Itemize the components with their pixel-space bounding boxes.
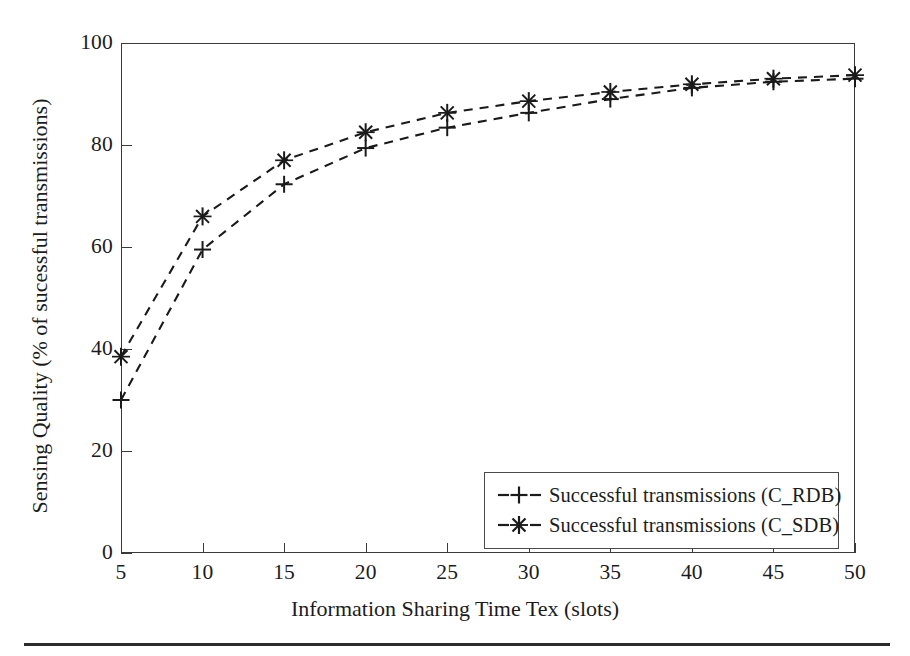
x-axis-tick-labels: 5101520253035404550 xyxy=(0,562,910,594)
x-tick-label: 30 xyxy=(518,562,540,584)
y-tick-label: 100 xyxy=(67,32,113,54)
chart-legend: Successful transmissions (C_RDB) Success… xyxy=(484,472,839,549)
y-tick-label: 0 xyxy=(67,542,113,564)
x-tick-mark xyxy=(366,543,367,553)
x-tick-label: 10 xyxy=(192,562,214,584)
page-separator-rule xyxy=(24,643,890,646)
legend-marker-asterisk-icon xyxy=(497,514,543,536)
x-tick-mark xyxy=(447,543,448,553)
x-tick-label: 50 xyxy=(844,562,866,584)
y-tick-mark xyxy=(121,451,132,452)
x-tick-mark xyxy=(855,543,856,553)
data-marker-asterisk xyxy=(510,516,528,534)
y-tick-mark xyxy=(121,247,132,248)
data-marker-plus xyxy=(511,487,528,504)
figure-chart: 020406080100 5101520253035404550 Informa… xyxy=(0,0,910,656)
y-tick-label: 80 xyxy=(67,134,113,156)
x-tick-label: 45 xyxy=(762,562,784,584)
x-tick-mark xyxy=(203,543,204,553)
legend-label-c-sdb: Successful transmissions (C_SDB) xyxy=(549,514,839,537)
x-tick-mark xyxy=(121,543,122,553)
legend-marker-plus-icon xyxy=(497,484,543,506)
y-tick-mark xyxy=(121,43,132,44)
legend-item-c-sdb: Successful transmissions (C_SDB) xyxy=(497,510,828,540)
x-tick-label: 35 xyxy=(599,562,621,584)
y-tick-label: 20 xyxy=(67,440,113,462)
x-tick-label: 5 xyxy=(116,562,127,584)
x-tick-label: 20 xyxy=(355,562,377,584)
legend-label-c-rdb: Successful transmissions (C_RDB) xyxy=(549,484,841,507)
x-tick-mark xyxy=(284,543,285,553)
x-tick-label: 15 xyxy=(273,562,295,584)
y-tick-mark xyxy=(121,145,132,146)
y-axis-tick-labels: 020406080100 xyxy=(57,0,113,656)
legend-item-c-rdb: Successful transmissions (C_RDB) xyxy=(497,480,828,510)
y-tick-label: 40 xyxy=(67,338,113,360)
y-axis-title: Sensing Quality (% of sucessful transmis… xyxy=(27,46,53,566)
x-tick-label: 40 xyxy=(681,562,703,584)
y-tick-mark xyxy=(121,349,132,350)
y-tick-mark xyxy=(121,553,132,554)
x-tick-label: 25 xyxy=(436,562,458,584)
y-tick-label: 60 xyxy=(67,236,113,258)
x-axis-title: Information Sharing Time Tex (slots) xyxy=(0,596,910,622)
